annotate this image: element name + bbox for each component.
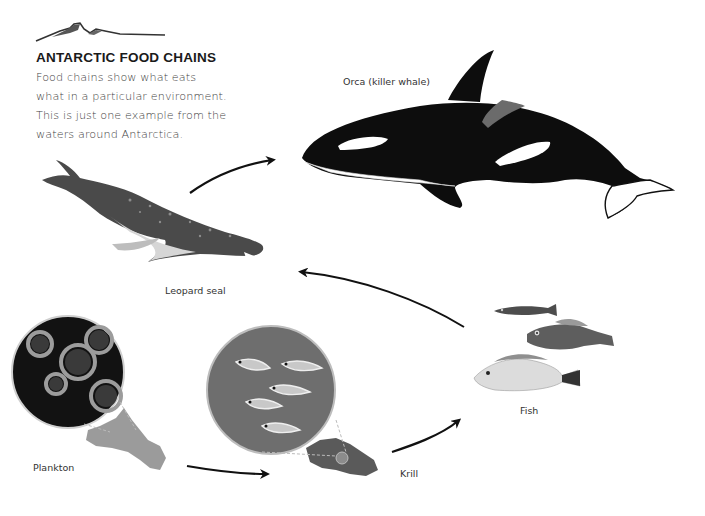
arrow-seal-to-orca [190,160,272,193]
food-chain-arrows [0,0,705,516]
arrow-plankton-to-krill [187,466,266,474]
arrow-krill-to-fish [392,421,458,452]
arrow-fish-to-seal [302,272,464,327]
